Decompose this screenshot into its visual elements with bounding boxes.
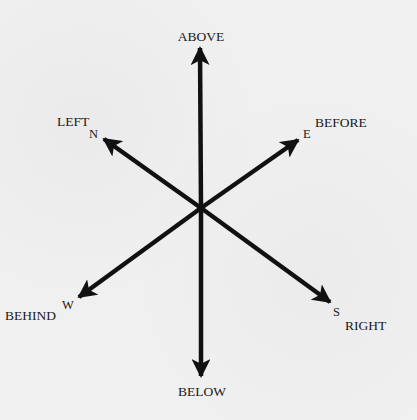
- arrow-right: [201, 208, 330, 302]
- label-below: BELOW: [178, 384, 226, 399]
- compass-letter-w: W: [62, 298, 74, 312]
- compass-letter-s: S: [333, 305, 340, 319]
- arrow-above: [200, 48, 201, 208]
- compass-letter-e: E: [303, 127, 311, 141]
- label-before: BEFORE: [315, 115, 367, 130]
- arrow-behind: [79, 208, 201, 297]
- direction-diagram: ABOVE BELOW LEFT BEFORE BEHIND RIGHT N E…: [0, 0, 417, 420]
- label-above: ABOVE: [178, 29, 225, 44]
- label-right: RIGHT: [345, 318, 387, 333]
- compass-letter-n: N: [89, 127, 98, 141]
- label-behind: BEHIND: [5, 308, 56, 323]
- label-left: LEFT: [57, 114, 90, 129]
- arrow-left: [104, 139, 201, 208]
- arrow-before: [201, 140, 298, 208]
